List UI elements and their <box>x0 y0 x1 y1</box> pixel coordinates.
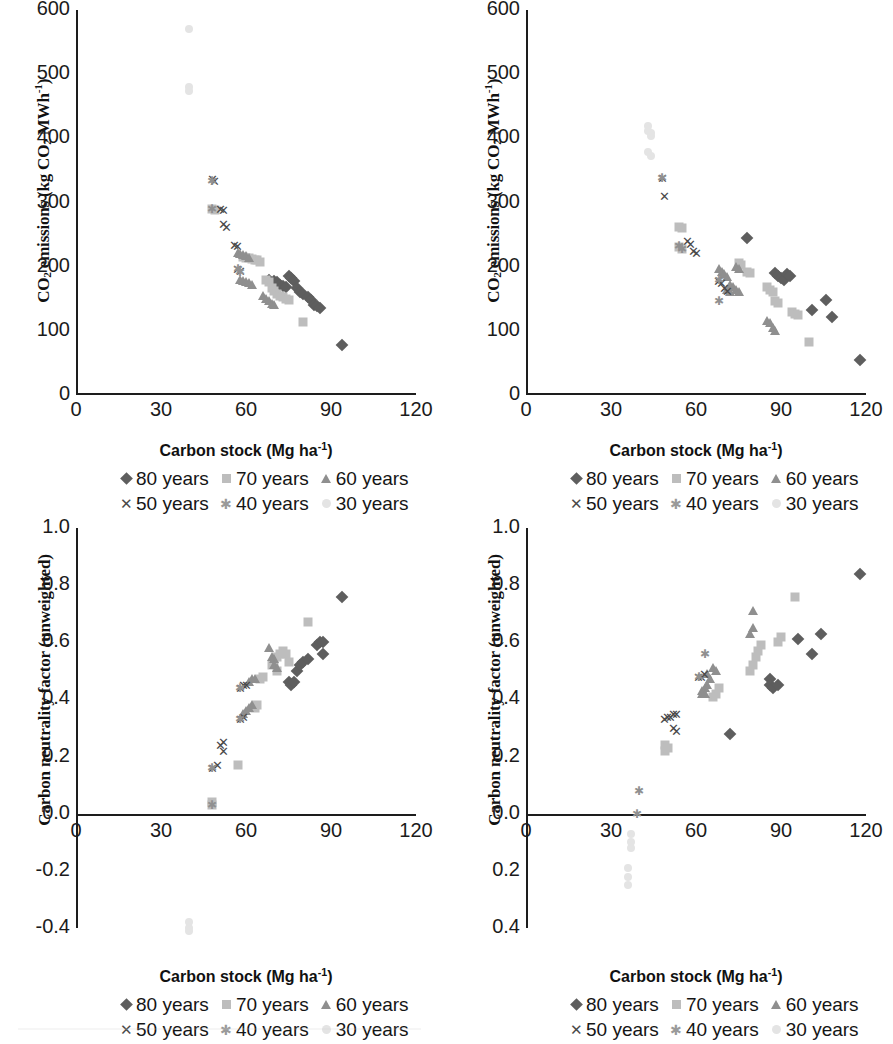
data-point-square <box>714 684 723 693</box>
triangle-marker-icon <box>318 470 335 487</box>
x-tick-label: 120 <box>391 819 441 842</box>
legend-item-80-years[interactable]: 80 years <box>568 994 668 1016</box>
x-tick-label: 0 <box>501 398 551 421</box>
legend-item-60-years[interactable]: 60 years <box>318 994 418 1016</box>
data-point-square <box>768 288 777 297</box>
legend-top-left: 80 years 70 years 60 years ✕50 years ✱40… <box>118 466 418 516</box>
data-point-triangle <box>734 264 744 273</box>
plot-area-bottom-right: ✕✕✕✕✕✕✕✕✕✕✱✱✱✱ 0.40.20.00.20.40.60.81.0 … <box>526 528 866 928</box>
diamond-marker-icon <box>118 470 135 487</box>
data-point-circle <box>185 927 193 935</box>
x-axis-title: Carbon stock (Mg ha-1) <box>96 440 396 461</box>
x-tick-label: 0 <box>501 819 551 842</box>
data-point-diamond <box>826 310 839 323</box>
y-tick-label: 0.2 <box>458 858 520 881</box>
data-point-diamond <box>814 627 827 640</box>
legend-item-70-years[interactable]: 70 years <box>668 994 768 1016</box>
x-tick-label: 120 <box>391 398 441 421</box>
legend-item-60-years[interactable]: 60 years <box>768 994 868 1016</box>
data-point-triangle <box>247 280 257 289</box>
data-point-circle <box>627 844 635 852</box>
legend-item-70-years[interactable]: 70 years <box>218 994 318 1016</box>
y-tick-label: 400 <box>8 125 70 148</box>
y-tick-label: 0.6 <box>8 629 70 652</box>
data-points-bottom-right: ✕✕✕✕✕✕✕✕✕✕✱✱✱✱ <box>526 528 866 928</box>
data-point-star: ✱ <box>207 763 218 774</box>
legend-row-2: ✕50 years ✱40 years 30 years <box>568 1017 868 1042</box>
square-marker-icon <box>218 996 235 1013</box>
legend-item-80-years[interactable]: 80 years <box>568 468 668 490</box>
data-point-star: ✱ <box>207 175 218 186</box>
triangle-marker-icon <box>768 470 785 487</box>
y-tick-label: 0.2 <box>8 744 70 767</box>
x-tick-label: 90 <box>306 819 356 842</box>
panel-bottom-left: Carbon neutrality factor (unweighted) ✕✕… <box>0 510 446 1044</box>
legend-item-40-years[interactable]: ✱40 years <box>668 1019 768 1041</box>
data-point-star: ✱ <box>713 274 724 285</box>
x-tick-label: 90 <box>306 398 356 421</box>
data-point-square <box>794 311 803 320</box>
legend-item-80-years[interactable]: 80 years <box>118 994 218 1016</box>
data-point-diamond <box>336 590 349 603</box>
data-point-square <box>748 661 757 670</box>
data-point-circle <box>624 864 632 872</box>
data-point-triangle <box>748 623 758 632</box>
data-point-circle <box>647 152 655 160</box>
star-marker-icon: ✱ <box>668 1021 685 1038</box>
legend-row-1: 80 years 70 years 60 years <box>568 992 868 1017</box>
data-point-circle <box>185 25 193 33</box>
y-tick-label: 100 <box>8 318 70 341</box>
y-tick-label: 0.8 <box>458 572 520 595</box>
data-point-diamond <box>806 304 819 317</box>
diamond-marker-icon <box>118 996 135 1013</box>
data-point-star: ✱ <box>235 266 246 277</box>
data-point-diamond <box>724 727 737 740</box>
legend-item-70-years[interactable]: 70 years <box>218 468 318 490</box>
data-point-star: ✱ <box>657 173 668 184</box>
legend-item-50-years[interactable]: ✕50 years <box>568 1019 668 1041</box>
y-tick-label: 1.0 <box>8 515 70 538</box>
x-axis-title: Carbon stock (Mg ha-1) <box>546 440 846 461</box>
x-axis-title: Carbon stock (Mg ha-1) <box>96 966 396 987</box>
plot-area-top-left: ✕✕✕✕✕✕✕✕✕✕✱✱✱✱ 0100200300400500600 03060… <box>76 10 416 395</box>
data-point-square <box>805 338 814 347</box>
legend-item-60-years[interactable]: 60 years <box>318 468 418 490</box>
data-point-star: ✱ <box>631 808 642 819</box>
legend-item-70-years[interactable]: 70 years <box>668 468 768 490</box>
data-point-square <box>298 317 307 326</box>
x-tick-label: 90 <box>756 398 806 421</box>
x-tick-label: 120 <box>841 819 891 842</box>
circle-marker-icon <box>768 1021 785 1038</box>
y-tick-label: 0.4 <box>458 686 520 709</box>
x-tick-label: 60 <box>671 398 721 421</box>
legend-item-30-years[interactable]: 30 years <box>768 1019 868 1041</box>
y-tick-label: 0.2 <box>458 744 520 767</box>
data-point-diamond <box>854 354 867 367</box>
panel-top-left: CO2 emissions (kg CO2 MWh-1) ✕✕✕✕✕✕✕✕✕✕✱… <box>0 0 446 510</box>
legend-item-80-years[interactable]: 80 years <box>118 468 218 490</box>
data-point-star: ✱ <box>713 296 724 307</box>
y-tick-label: 300 <box>8 190 70 213</box>
y-tick-label: 0.6 <box>458 629 520 652</box>
diamond-marker-icon <box>568 470 585 487</box>
y-tick-label: 500 <box>458 61 520 84</box>
y-tick-label: 200 <box>458 254 520 277</box>
x-tick-label: 90 <box>756 819 806 842</box>
y-tick-label: 0.4 <box>458 915 520 938</box>
data-point-square <box>304 618 313 627</box>
y-tick-label: 100 <box>458 318 520 341</box>
x-tick-label: 120 <box>841 398 891 421</box>
legend-item-60-years[interactable]: 60 years <box>768 468 868 490</box>
x-tick-label: 30 <box>136 819 186 842</box>
data-point-square <box>677 224 686 233</box>
y-tick-label: 600 <box>8 0 70 20</box>
x-axis-title: Carbon stock (Mg ha-1) <box>546 966 846 987</box>
triangle-marker-icon <box>318 996 335 1013</box>
data-point-circle <box>624 881 632 889</box>
data-point-triangle <box>711 666 721 675</box>
x-tick-label: 30 <box>136 398 186 421</box>
data-point-x: ✕ <box>232 241 243 252</box>
data-point-triangle <box>770 326 780 335</box>
data-point-x: ✕ <box>691 247 702 258</box>
plot-area-bottom-left: ✕✕✕✕✕✕✕✕✕✕✱✱✱✱ -0.4-0.20.00.20.40.60.81.… <box>76 528 416 928</box>
